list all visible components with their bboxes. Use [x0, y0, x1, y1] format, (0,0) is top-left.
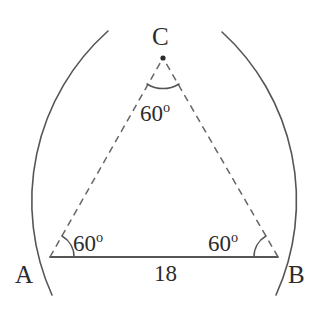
- angle-label-at-a: 60o: [73, 230, 103, 255]
- apex-point-marker: [160, 55, 165, 60]
- degree-symbol-a: o: [96, 229, 103, 245]
- angle-arc-at-b: [254, 236, 266, 257]
- angle-value-c: 60: [140, 101, 163, 126]
- geometry-figure: A B C 60o 60o 60o 18: [0, 0, 319, 319]
- construction-arc-right: [222, 32, 296, 295]
- vertex-label-c: C: [152, 24, 169, 49]
- construction-arc-left: [32, 31, 108, 295]
- angle-label-at-b: 60o: [208, 230, 238, 255]
- segment-bc-side: [163, 58, 278, 257]
- base-length-label: 18: [154, 262, 177, 285]
- angle-label-at-c: 60o: [140, 100, 170, 125]
- degree-symbol-b: o: [231, 229, 238, 245]
- vertex-label-a: A: [15, 262, 33, 287]
- angle-value-b: 60: [208, 231, 231, 256]
- angle-value-a: 60: [73, 231, 96, 256]
- segment-ac-side: [50, 58, 163, 257]
- vertex-label-b: B: [288, 262, 305, 287]
- angle-arc-at-c: [147, 84, 179, 89]
- degree-symbol-c: o: [163, 99, 170, 115]
